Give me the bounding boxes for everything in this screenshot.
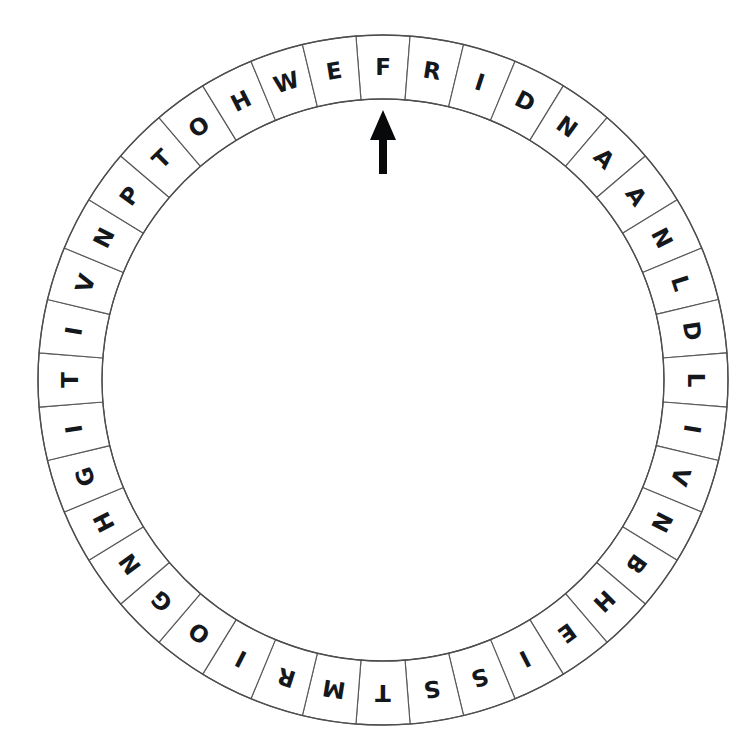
letter-wheel-diagram: FRIDNAANLDLIVNBHEISSTMRIOGNHGITIVNPTOHWE xyxy=(0,0,756,738)
wheel-cell-letter: M xyxy=(321,675,348,704)
wheel-hub xyxy=(103,100,663,660)
wheel-cell-letter: T xyxy=(375,680,391,706)
wheel-cell-letter: T xyxy=(57,372,83,388)
wheel-cell-letter: F xyxy=(375,54,391,80)
wheel-canvas: FRIDNAANLDLIVNBHEISSTMRIOGNHGITIVNPTOHWE xyxy=(0,0,756,738)
wheel-cell-letter: D xyxy=(678,320,707,343)
wheel-cell-letter: L xyxy=(683,373,709,388)
